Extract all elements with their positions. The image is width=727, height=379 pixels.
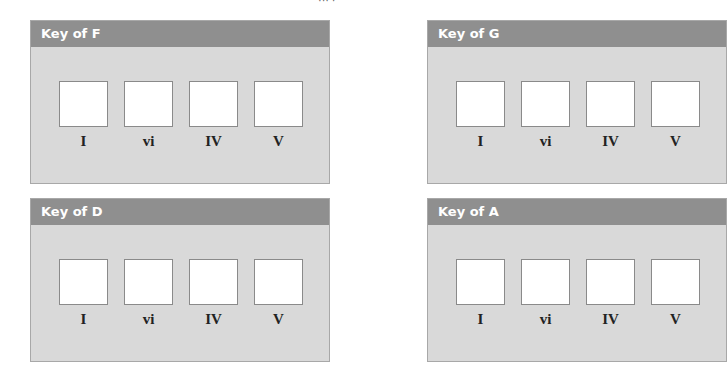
chord-slot: vi <box>521 81 586 150</box>
chord-slots: I vi IV V <box>456 259 716 328</box>
panel-title: Key of G <box>428 21 726 47</box>
chord-numeral-label: V <box>254 311 303 328</box>
chord-numeral-label: IV <box>189 133 238 150</box>
chord-answer-box[interactable] <box>189 259 238 305</box>
chord-numeral-label: IV <box>586 133 635 150</box>
chord-numeral-label: V <box>651 311 700 328</box>
chord-numeral-label: V <box>651 133 700 150</box>
chord-answer-box[interactable] <box>586 259 635 305</box>
panel-key-of-d: Key of D I vi IV V <box>30 198 330 362</box>
chord-answer-box[interactable] <box>456 81 505 127</box>
chord-answer-box[interactable] <box>189 81 238 127</box>
chord-answer-box[interactable] <box>254 259 303 305</box>
chord-numeral-label: vi <box>521 311 570 328</box>
chord-slot: vi <box>521 259 586 328</box>
chord-slot: vi <box>124 259 189 328</box>
chord-answer-box[interactable] <box>124 259 173 305</box>
chord-slots: I vi IV V <box>59 259 319 328</box>
chord-slot: I <box>456 259 521 328</box>
chord-numeral-label: I <box>59 311 108 328</box>
chord-answer-box[interactable] <box>521 81 570 127</box>
chord-slot: IV <box>189 259 254 328</box>
panel-key-of-g: Key of G I vi IV V <box>427 20 727 184</box>
chord-numeral-label: vi <box>124 311 173 328</box>
chord-answer-box[interactable] <box>59 259 108 305</box>
chord-slot: IV <box>189 81 254 150</box>
chord-slot: V <box>651 81 716 150</box>
chord-slots: I vi IV V <box>456 81 716 150</box>
panel-title: Key of A <box>428 199 726 225</box>
chord-answer-box[interactable] <box>456 259 505 305</box>
panel-key-of-a: Key of A I vi IV V <box>427 198 727 362</box>
chord-answer-box[interactable] <box>651 81 700 127</box>
chord-slot: V <box>254 259 319 328</box>
chord-answer-box[interactable] <box>651 259 700 305</box>
chord-numeral-label: I <box>456 311 505 328</box>
chord-answer-box[interactable] <box>59 81 108 127</box>
chord-slot: IV <box>586 81 651 150</box>
panel-key-of-f: Key of F I vi IV V <box>30 20 330 184</box>
chord-answer-box[interactable] <box>254 81 303 127</box>
chord-numeral-label: V <box>254 133 303 150</box>
panel-title: Key of F <box>31 21 329 47</box>
chord-slot: I <box>59 259 124 328</box>
chord-slot: I <box>456 81 521 150</box>
chord-slot: IV <box>586 259 651 328</box>
chord-slots: I vi IV V <box>59 81 319 150</box>
chord-numeral-label: I <box>59 133 108 150</box>
chord-slot: I <box>59 81 124 150</box>
chord-slot: V <box>254 81 319 150</box>
chord-answer-box[interactable] <box>124 81 173 127</box>
chord-numeral-label: IV <box>189 311 238 328</box>
page-top-text-fragment: ··· · <box>318 0 335 6</box>
chord-answer-box[interactable] <box>521 259 570 305</box>
panel-title: Key of D <box>31 199 329 225</box>
chord-slot: V <box>651 259 716 328</box>
chord-numeral-label: I <box>456 133 505 150</box>
chord-numeral-label: vi <box>124 133 173 150</box>
chord-slot: vi <box>124 81 189 150</box>
chord-answer-box[interactable] <box>586 81 635 127</box>
chord-numeral-label: vi <box>521 133 570 150</box>
chord-numeral-label: IV <box>586 311 635 328</box>
